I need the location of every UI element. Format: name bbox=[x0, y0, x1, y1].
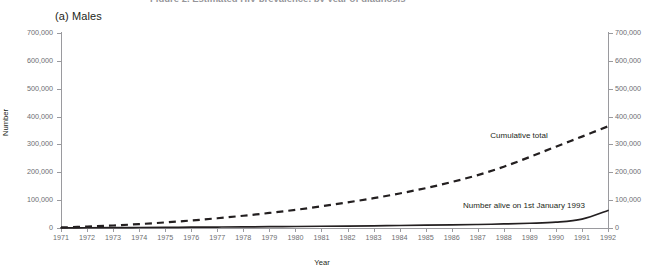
annotation-cumulative-total: Cumulative total bbox=[490, 131, 547, 140]
series-cumulative-total bbox=[61, 126, 608, 227]
series-number-alive bbox=[61, 210, 608, 227]
plot-curves bbox=[0, 0, 666, 277]
figure-males-cumulative: Figure 2. Estimated HIV prevalence, by y… bbox=[0, 0, 666, 277]
annotation-number-alive: Number alive on 1st January 1993 bbox=[463, 201, 585, 210]
